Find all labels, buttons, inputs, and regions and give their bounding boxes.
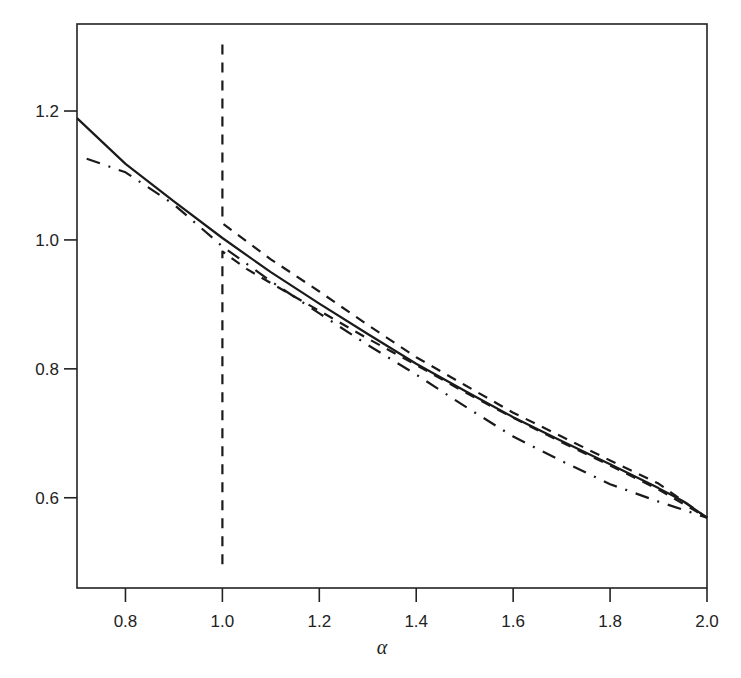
x-tick-label: 1.6 <box>501 612 525 631</box>
y-tick-label: 0.8 <box>35 360 59 379</box>
x-tick-label: 1.0 <box>211 612 235 631</box>
plot-frame <box>77 24 707 588</box>
y-axis: 0.60.81.01.2 <box>35 102 77 508</box>
x-axis-label: α <box>377 636 388 658</box>
y-tick-label: 1.2 <box>35 102 59 121</box>
y-tick-label: 1.0 <box>35 231 59 250</box>
series-group <box>77 45 707 565</box>
x-tick-label: 2.0 <box>695 612 719 631</box>
x-axis: 0.81.01.21.41.61.82.0 <box>114 588 719 631</box>
series-line-dashed-lower <box>222 252 707 565</box>
chart: 0.81.01.21.41.61.82.0 0.60.81.01.2 α <box>0 0 741 678</box>
series-line-solid <box>77 118 707 518</box>
x-tick-label: 1.2 <box>307 612 331 631</box>
x-tick-label: 1.4 <box>404 612 428 631</box>
series-line-dash-dot <box>87 159 707 518</box>
series-line-dashed-upper <box>222 45 707 518</box>
y-tick-label: 0.6 <box>35 489 59 508</box>
x-tick-label: 0.8 <box>114 612 138 631</box>
x-tick-label: 1.8 <box>598 612 622 631</box>
